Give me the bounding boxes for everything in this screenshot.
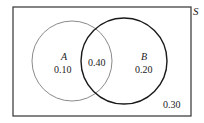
set-a-label: A [61, 52, 67, 62]
set-a-only-value: 0.10 [54, 65, 72, 75]
outside-value: 0.30 [163, 100, 181, 110]
set-b-only-value: 0.20 [135, 65, 153, 75]
set-b-label: B [141, 52, 147, 62]
intersection-value: 0.40 [88, 58, 106, 68]
universe-label: S [193, 6, 199, 17]
